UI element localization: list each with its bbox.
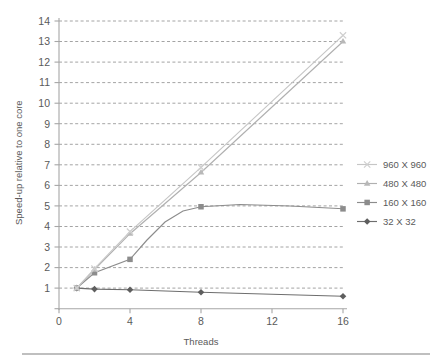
y-tick-label-3: 3 [44,241,50,253]
y-tick-label-8: 8 [44,138,50,150]
chart-legend: 960 X 960 480 X 480 160 X 160 32 X 32 [357,159,426,227]
y-tick-label-9: 9 [44,118,50,130]
series-960x960 [74,32,347,291]
x-cross-marker [340,32,346,38]
legend-label-960x960: 960 X 960 [383,159,426,170]
square-marker [340,206,346,212]
triangle-icon [364,180,371,186]
y-tick-label-11: 11 [39,76,50,88]
legend-item-160x160[interactable]: 160 X 160 [357,197,426,208]
legend-label-480x480: 480 X 480 [383,178,426,189]
y-tick-label-10: 10 [38,97,50,109]
diamond-marker [198,289,205,296]
series-480x480 [74,38,347,290]
square-marker [198,204,204,210]
x-tick-label-12: 12 [266,315,278,327]
diamond-marker [91,286,98,293]
y-axis-title: Speed-up relative to one core [13,100,24,225]
x-axis [59,309,347,314]
x-tick-label-16: 16 [337,315,349,327]
y-tick-label-6: 6 [44,179,50,191]
x-tick-label-4: 4 [127,315,133,327]
y-tick-label-2: 2 [44,261,50,273]
series-32x32-line [77,288,343,296]
square-icon [364,200,370,206]
x-axis-title: Threads [184,336,219,347]
y-tick-label-14: 14 [38,15,50,27]
y-tick-label-1: 1 [44,282,50,294]
legend-label-32x32: 32 X 32 [383,216,416,227]
gridlines [59,21,343,288]
y-tick-labels: 14 13 12 11 10 9 8 7 6 5 4 3 2 1 [38,15,50,294]
y-tick-label-4: 4 [44,220,50,232]
series-32x32 [73,285,346,300]
x-tick-labels: 0 4 8 12 16 [56,315,349,327]
diamond-marker [340,293,347,300]
y-axis-title-text: Speed-up relative to one core [13,100,24,225]
legend-label-160x160: 160 X 160 [383,197,426,208]
y-tick-label-13: 13 [38,35,50,47]
square-marker [127,257,133,263]
diamond-icon [364,218,371,225]
speedup-line-chart: Speed-up relative to one core [0,0,448,362]
legend-item-32x32[interactable]: 32 X 32 [357,216,416,227]
x-tick-label-0: 0 [56,315,62,327]
y-axis [55,18,60,310]
series-960x960-line [77,35,343,288]
legend-item-960x960[interactable]: 960 X 960 [357,159,426,170]
legend-item-480x480[interactable]: 480 X 480 [357,178,426,189]
y-tick-label-12: 12 [38,56,50,68]
diamond-marker [127,286,134,293]
x-tick-label-8: 8 [198,315,204,327]
y-tick-label-7: 7 [44,159,50,171]
chart-figure: Speed-up relative to one core [0,0,448,362]
triangle-marker [340,38,347,44]
y-tick-label-5: 5 [44,200,50,212]
